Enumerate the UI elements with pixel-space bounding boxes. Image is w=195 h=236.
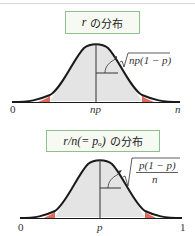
panel1-sd-label: np(1 − p) [129, 54, 172, 67]
panel1-axis-label-center: np [90, 103, 102, 115]
panel2-sd-denominator: n [152, 173, 158, 185]
panel2-sd-numerator: p(1 − p) [138, 159, 176, 172]
panel2-normal-curve: p(1 − p) n 0 p 1 [18, 158, 186, 233]
panel2-axis-label-left: 0 [18, 221, 24, 233]
panel2-axis-label-right: 1 [180, 221, 186, 233]
panel2-axis-label-center: p [96, 221, 103, 233]
panel1-normal-curve: np(1 − p) 0 np n [10, 44, 181, 115]
distribution-diagrams: np(1 − p) 0 np n p(1 − p) n 0 p 1 [0, 0, 195, 236]
panel1-axis-label-right: n [175, 103, 181, 115]
panel1-axis-label-left: 0 [10, 103, 16, 115]
